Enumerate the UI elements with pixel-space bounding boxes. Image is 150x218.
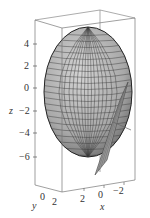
x-tick-0: 0	[98, 190, 103, 200]
z-axis-label: z	[9, 106, 13, 116]
ellipsoid-3d-plot: 4 2 0 −2 −4 −6 z 0 2 y 2 0 −2 x	[0, 0, 150, 218]
z-tick-neg2: −2	[19, 106, 30, 116]
y-axis-label: y	[32, 201, 36, 211]
y-tick-2: 2	[52, 197, 57, 207]
x-tick-neg2: −2	[113, 186, 124, 196]
x-tick-2: 2	[80, 194, 85, 204]
ellipsoid-surface	[40, 27, 136, 157]
x-axis-label: x	[100, 202, 104, 212]
z-tick-neg4: −4	[19, 128, 30, 138]
z-tick-0: 0	[24, 83, 29, 93]
z-tick-4: 4	[24, 39, 29, 49]
z-tick-2: 2	[24, 61, 29, 71]
y-tick-0: 0	[40, 192, 45, 202]
z-tick-neg6: −6	[19, 152, 30, 162]
